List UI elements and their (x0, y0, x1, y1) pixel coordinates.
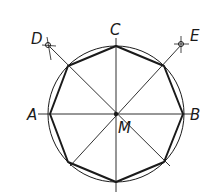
center-point (114, 112, 118, 116)
diagonal-e (70, 44, 182, 166)
label-b: B (190, 106, 200, 124)
octagon-construction-diagram: C D E A B M (0, 0, 208, 196)
label-m: M (118, 119, 131, 137)
label-d: D (31, 30, 43, 48)
diagonal-d (48, 45, 170, 166)
label-c: C (110, 21, 121, 39)
label-a: A (26, 106, 37, 124)
label-e: E (190, 27, 200, 45)
point-d-mark (42, 37, 56, 60)
